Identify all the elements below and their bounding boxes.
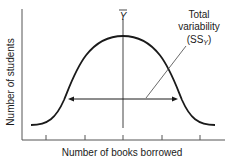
y-axis-label: Number of students (5, 38, 16, 125)
annotation-leader (146, 46, 186, 98)
annotation-line2: variability (178, 21, 220, 32)
annotation-line3: (SSY) (187, 34, 212, 46)
mean-label: Y (120, 11, 128, 22)
x-axis-label: Number of books borrowed (62, 147, 183, 158)
x-ticks (46, 135, 200, 140)
annotation-line1: Total (188, 9, 209, 20)
chart: Y Total variability (SSY) Number of book… (0, 0, 233, 162)
